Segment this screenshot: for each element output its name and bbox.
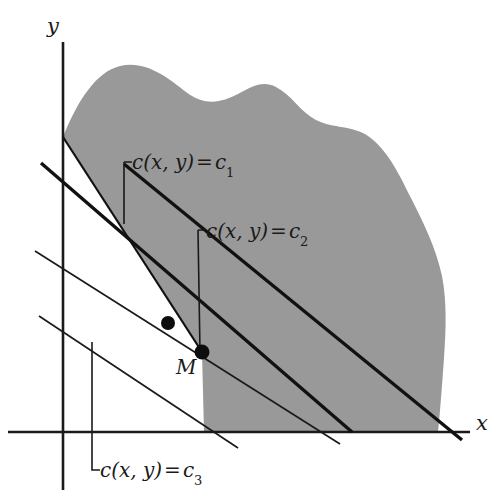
c3-subscript: 3 — [194, 473, 202, 488]
feasible-region-shape — [63, 65, 446, 432]
c2-subscript: 2 — [300, 234, 308, 249]
figure-root: y x M c(x, y)=c1 c(x, y)=c2 c(x, y)=c3 — [0, 0, 497, 502]
c1-operator: = — [194, 150, 215, 174]
feasible-region-group — [63, 65, 446, 432]
c3-operator: = — [162, 458, 183, 482]
c1-subscript: 1 — [226, 165, 234, 180]
c2-operator: = — [268, 219, 289, 243]
c3-value: c — [183, 458, 194, 482]
level-curve-label-c3: c(x, y)=c3 — [100, 460, 202, 484]
level-curve-label-c1: c(x, y)=c1 — [132, 152, 234, 176]
c2-value: c — [289, 219, 300, 243]
c1-expression: c(x, y) — [132, 150, 194, 174]
x-axis-label: x — [476, 413, 488, 434]
level-curve-label-c2: c(x, y)=c2 — [206, 221, 308, 245]
diagram-canvas — [0, 0, 497, 502]
y-axis-label: y — [47, 16, 59, 37]
c3-expression: c(x, y) — [100, 458, 162, 482]
c2-expression: c(x, y) — [206, 219, 268, 243]
vertex-upper-dot — [161, 316, 175, 330]
c1-value: c — [215, 150, 226, 174]
leader-c3 — [92, 342, 100, 470]
optimum-dot — [195, 345, 210, 360]
optimal-point-label: M — [176, 357, 196, 377]
